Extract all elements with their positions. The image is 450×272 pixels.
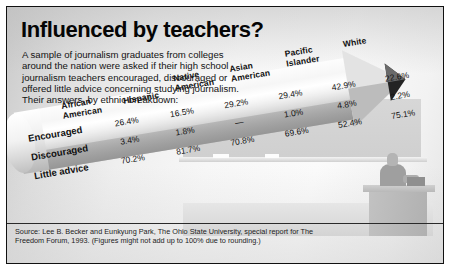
page-title: Influenced by teachers?: [21, 17, 264, 43]
cell-little-advice-native-american: 70.8%: [222, 133, 263, 149]
cell-discouraged-white: 2.2%: [380, 87, 421, 103]
cell-discouraged-pacific-islander: 4.8%: [326, 96, 367, 112]
source-note: Source: Lee B. Becker and Eunkyung Park,…: [15, 228, 315, 245]
cell-little-advice-hispanic: 81.7%: [168, 142, 209, 158]
intro-paragraph: A sample of journalism graduates from co…: [22, 49, 240, 105]
row-label-discouraged: Discouraged: [30, 142, 89, 162]
cell-discouraged-african-american: 3.4%: [109, 132, 150, 148]
cell-little-advice-pacific-islander: 52.4%: [329, 115, 370, 131]
cell-encouraged-hispanic: 16.5%: [161, 104, 202, 120]
source-divider: [7, 223, 443, 224]
infographic-panel: African American Hispanic Native America…: [6, 6, 444, 264]
row-label-encouraged: Encouraged: [27, 124, 83, 144]
cell-encouraged-african-american: 26.4%: [106, 113, 147, 129]
cell-discouraged-hispanic: 1.8%: [164, 123, 205, 139]
cell-discouraged-asian-american: 1.0%: [273, 105, 314, 121]
cell-encouraged-white: 22.6%: [376, 68, 417, 84]
row-label-little-advice: Little advice: [33, 161, 89, 181]
cell-discouraged-native-american: —: [219, 114, 260, 130]
column-header-white: White: [342, 36, 367, 49]
cell-little-advice-white: 75.1%: [383, 106, 424, 122]
column-header-pacific-islander: Pacific Islander: [284, 44, 320, 68]
cell-little-advice-african-american: 70.2%: [112, 151, 153, 167]
cell-little-advice-asian-american: 69.6%: [276, 124, 317, 140]
cell-encouraged-pacific-islander: 42.9%: [323, 77, 364, 93]
cell-encouraged-asian-american: 29.4%: [270, 86, 311, 102]
